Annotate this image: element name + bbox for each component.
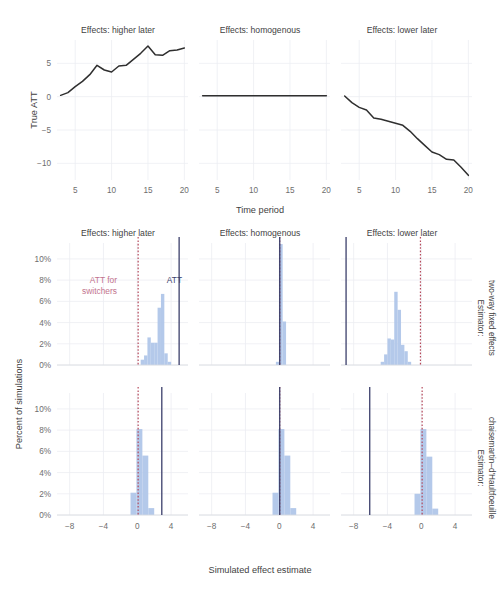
annotation-switchers-line2: switchers [82, 286, 117, 296]
top-ytick-label: 0 [46, 93, 51, 102]
facet-title-top-3: Effects: lower later [367, 25, 438, 35]
top-y-axis-title: True ATT [29, 91, 39, 129]
histogram-bar [276, 362, 279, 365]
annotation-switchers-line1: ATT for [90, 275, 117, 285]
top-panel-bg-0 [57, 40, 188, 180]
histogram-bar [401, 345, 404, 365]
hist-ytick-label: 2% [39, 490, 51, 499]
histogram-bar [394, 292, 397, 365]
histogram-bar [420, 429, 426, 515]
top-xtick-label: 15 [285, 186, 295, 195]
histogram-bar [154, 343, 157, 365]
hist-panel-bg-twfe-0 [57, 243, 188, 365]
histogram-bar [273, 493, 279, 515]
top-xtick-label: 20 [180, 186, 190, 195]
hist-ytick-label: 4% [39, 319, 51, 328]
histogram-bar [164, 353, 167, 365]
top-panel-bg-2 [341, 40, 472, 180]
top-ytick-label: −5 [42, 126, 52, 135]
hist-xtick-label: 0 [277, 522, 282, 531]
histogram-bar [290, 508, 296, 515]
histogram-bar [148, 508, 154, 515]
row-strip-twfe-line2: two-way fixed effects [487, 280, 496, 356]
hist-ytick-label: 10% [35, 405, 51, 414]
histogram-bar [415, 494, 421, 515]
histogram-bar [136, 429, 142, 515]
hist-panel-bg-twfe-2 [341, 243, 472, 365]
figure-root: 50−5−105101520510152051015200%2%4%6%8%10… [0, 0, 504, 596]
top-xtick-label: 5 [215, 186, 220, 195]
hist-panel-bg-cdh-2 [341, 393, 472, 515]
top-xtick-label: 10 [107, 186, 117, 195]
histogram-bar [147, 337, 150, 365]
histogram-bar [168, 362, 171, 365]
hist-xtick-label: 4 [311, 522, 316, 531]
facet-title-hist-1: Effects: higher later [81, 228, 155, 238]
hist-xtick-label: −8 [207, 522, 217, 531]
row-strip-twfe-line1: Estimator: [476, 300, 485, 337]
hist-ytick-label: 0% [39, 511, 51, 520]
hist-xtick-label: −4 [383, 522, 393, 531]
top-xtick-label: 15 [427, 186, 437, 195]
histogram-bar [144, 355, 147, 365]
top-xtick-label: 5 [357, 186, 362, 195]
histogram-bar [151, 343, 154, 365]
histogram-bar [432, 509, 438, 515]
top-x-axis-title: Time period [236, 205, 284, 215]
histogram-bar [404, 351, 407, 365]
figure-svg: 50−5−105101520510152051015200%2%4%6%8%10… [0, 0, 504, 596]
histogram-bar [283, 322, 286, 366]
histogram-bar [391, 340, 394, 365]
top-xtick-label: 20 [464, 186, 474, 195]
histogram-bar [161, 294, 164, 365]
hist-ytick-label: 0% [39, 361, 51, 370]
histogram-bar [131, 493, 137, 515]
hist-panel-bg-twfe-1 [199, 243, 330, 365]
top-xtick-label: 10 [391, 186, 401, 195]
hist-ytick-label: 2% [39, 340, 51, 349]
hist-xtick-label: 4 [169, 522, 174, 531]
top-ytick-label: 5 [46, 59, 51, 68]
top-xtick-label: 5 [73, 186, 78, 195]
hist-ytick-label: 4% [39, 469, 51, 478]
histogram-bar [381, 362, 384, 365]
hist-xtick-label: 0 [419, 522, 424, 531]
hist-ytick-label: 10% [35, 255, 51, 264]
top-panel-bg-1 [199, 40, 330, 180]
facet-title-top-1: Effects: higher later [81, 25, 155, 35]
histogram-bar [408, 362, 411, 365]
top-xtick-label: 10 [249, 186, 259, 195]
row-strip-cdh-line1: Estimator: [476, 450, 485, 487]
hist-xtick-label: −8 [65, 522, 75, 531]
annotation-att: ATT [167, 275, 182, 285]
hist-ytick-label: 8% [39, 426, 51, 435]
histogram-bar [141, 360, 144, 365]
histogram-bar [398, 310, 401, 365]
hist-xtick-label: −4 [99, 522, 109, 531]
hist-xtick-label: 0 [135, 522, 140, 531]
histogram-bar [284, 456, 290, 515]
histogram-bar [158, 308, 161, 365]
facet-title-top-2: Effects: homogenous [220, 25, 301, 35]
top-ytick-label: −10 [37, 159, 51, 168]
facet-title-hist-2: Effects: homogenous [220, 228, 301, 238]
bottom-y-axis-title: Percent of simulations [14, 358, 24, 449]
histogram-bar [387, 338, 390, 365]
row-strip-cdh-line2: chaisemartin–d'Haultfoeuille [487, 417, 496, 520]
hist-panel-bg-cdh-1 [199, 393, 330, 515]
hist-ytick-label: 6% [39, 297, 51, 306]
histogram-bar [426, 457, 432, 515]
hist-ytick-label: 8% [39, 276, 51, 285]
top-xtick-label: 15 [143, 186, 153, 195]
hist-xtick-label: 4 [453, 522, 458, 531]
hist-xtick-label: −8 [349, 522, 359, 531]
hist-panel-bg-cdh-0 [57, 393, 188, 515]
facet-title-hist-3: Effects: lower later [367, 228, 438, 238]
bottom-x-axis-title: Simulated effect estimate [209, 565, 312, 575]
histogram-bar [384, 354, 387, 365]
hist-ytick-label: 6% [39, 447, 51, 456]
hist-xtick-label: −4 [241, 522, 251, 531]
histogram-bar [142, 456, 148, 515]
top-xtick-label: 20 [322, 186, 332, 195]
